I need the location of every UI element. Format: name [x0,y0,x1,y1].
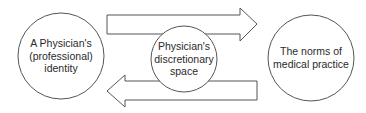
identity-label: A Physician's (professional) identity [18,37,104,75]
discretionary-label: Physician's discretionary space [152,40,216,78]
norms-line-2: medical practice [266,58,356,71]
discretionary-line-1: Physician's [152,40,216,53]
discretionary-line-3: space [152,65,216,78]
identity-line-1: A Physician's [18,37,104,50]
norms-line-1: The norms of [266,45,356,58]
norms-label: The norms of medical practice [266,45,356,70]
discretionary-line-2: discretionary [152,53,216,66]
identity-line-2: (professional) [18,50,104,63]
identity-line-3: identity [18,62,104,75]
